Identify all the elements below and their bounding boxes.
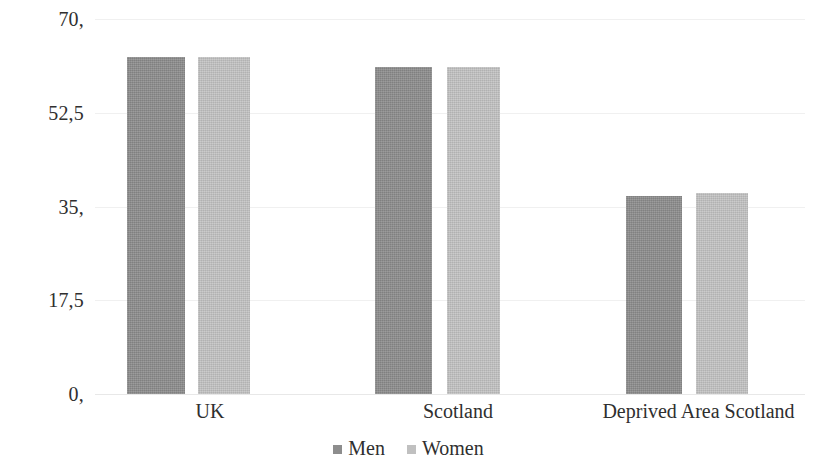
x-category-label-deprived: Deprived Area Scotland [586, 400, 811, 422]
chart-legend: Men Women [0, 437, 817, 459]
legend-item-men[interactable]: Men [333, 437, 385, 459]
bar-group-deprived-area-scotland [594, 19, 805, 394]
y-tick-label-17-5: 17,5 [0, 290, 84, 310]
y-axis: 70, 52,5 35, 17,5 0, [0, 19, 84, 394]
y-tick-label-35: 35, [0, 197, 84, 217]
legend-label-men: Men [348, 437, 385, 459]
plot-area [95, 19, 805, 394]
y-tick-label-0: 0, [0, 384, 84, 404]
x-category-label-uk: UK [95, 400, 325, 422]
legend-label-women: Women [422, 437, 484, 459]
legend-swatch-men-icon [333, 445, 342, 454]
gridline-zero-baseline [95, 394, 805, 395]
bar-scotland-men[interactable] [375, 67, 432, 394]
bar-uk-men[interactable] [127, 57, 185, 395]
bar-scotland-women[interactable] [447, 67, 500, 394]
x-category-label-scotland: Scotland [343, 400, 573, 422]
bar-uk-women[interactable] [198, 57, 250, 395]
bar-group-scotland [343, 19, 573, 394]
bar-group-uk [95, 19, 325, 394]
bar-deprived-women[interactable] [696, 193, 748, 394]
bar-deprived-men[interactable] [626, 196, 682, 394]
legend-item-women[interactable]: Women [407, 437, 484, 459]
bar-chart: 70, 52,5 35, 17,5 0, UK Scotland Deprive… [0, 0, 817, 469]
y-tick-label-52-5: 52,5 [0, 103, 84, 123]
legend-swatch-women-icon [407, 445, 416, 454]
y-tick-label-70: 70, [0, 9, 84, 29]
